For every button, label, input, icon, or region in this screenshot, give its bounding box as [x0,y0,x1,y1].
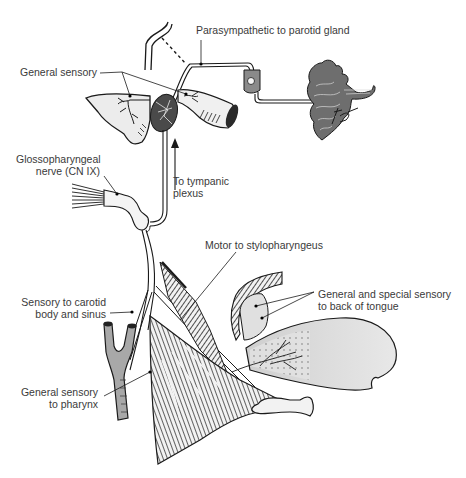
label-text: plexus [173,187,229,199]
label-back-of-tongue: General and special sensory to back of t… [318,288,451,312]
dashed-connection [162,38,186,64]
pharynx-muscle-drawing [150,316,280,464]
label-text: to pharynx [10,398,98,410]
label-text: to back of tongue [318,300,451,312]
label-text: Glossopharyngeal [16,153,100,165]
label-text: Parasympathetic to parotid gland [196,24,350,36]
label-glossopharyngeal-nerve: Glossopharyngeal nerve (CN IX) [16,153,100,177]
label-text: body and sinus [10,308,106,320]
auditory-tube-drawing [178,90,241,129]
label-text: General sensory [20,66,97,78]
label-carotid-body-sinus: Sensory to carotid body and sinus [10,296,106,320]
otic-ganglion-drawing [244,70,260,93]
label-general-sensory-pharynx: General sensory to pharynx [10,386,98,410]
tympanic-nerve-drawing [150,130,167,226]
carotid-artery-drawing [104,322,137,420]
label-text: Sensory to carotid [10,296,106,308]
label-text: nerve (CN IX) [16,165,100,177]
label-general-sensory-tympanic: General sensory [20,66,97,78]
tympanic-plexus-drawing [147,91,182,134]
label-parasympathetic-parotid: Parasympathetic to parotid gland [196,24,350,36]
label-text: Motor to stylopharyngeus [205,239,323,251]
label-motor-stylopharyngeus: Motor to stylopharyngeus [205,239,323,251]
petrosal-nerve-drawing [145,22,172,70]
parotid-gland-drawing [307,60,375,140]
label-text: To tympanic [173,175,229,187]
label-tympanic-plexus: To tympanic plexus [173,175,229,199]
label-text: General and special sensory [318,288,451,300]
tympanic-region-drawing [86,94,150,144]
label-text: General sensory [10,386,98,398]
